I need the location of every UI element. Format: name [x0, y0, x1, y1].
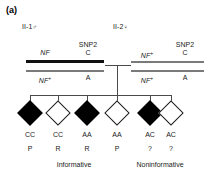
child-genotype-1: CC: [25, 131, 35, 139]
right-parent-hap1-locus: NF+: [141, 49, 153, 60]
child-genotype-2: CC: [53, 131, 63, 139]
left-parent-hap1-locus: NF: [40, 49, 49, 57]
child-phase-3: R: [84, 145, 89, 153]
parent-id-ii-1: II-1♂: [22, 23, 37, 31]
child-genotype-4: AA: [112, 131, 121, 139]
right-parent-hap2-locus: NF+: [141, 74, 153, 85]
child-symbol-4: [104, 100, 129, 125]
left-parent-haplotype-bar-2: [26, 70, 104, 72]
child-symbol-3: [74, 100, 99, 125]
child-symbol-6: [158, 100, 183, 125]
child-symbol-1: [17, 100, 42, 125]
child-phase-1: P: [28, 145, 33, 153]
descent-line: [117, 65, 118, 95]
child-genotype-3: AA: [82, 131, 91, 139]
mating-line: [105, 65, 131, 66]
female-symbol-icon: ♀: [124, 24, 129, 30]
right-parent-hap1-allele: C: [182, 49, 187, 57]
child-genotype-6: AC: [166, 131, 176, 139]
right-parent-haplotype-bar-2: [131, 70, 204, 72]
right-parent-snp-name: SNP2: [176, 41, 194, 49]
right-parent-haplotype-bar-1: [131, 61, 204, 63]
child-symbol-2: [45, 100, 70, 125]
group-label-informative: Informative: [57, 161, 92, 169]
right-parent-hap2-allele: A: [183, 74, 188, 82]
male-symbol-icon: ♂: [33, 24, 38, 30]
left-parent-haplotype-bar-1: [26, 60, 104, 63]
child-phase-2: R: [55, 145, 60, 153]
left-parent-hap1-allele: C: [85, 49, 90, 57]
parent-id-ii-2: II-2♀: [113, 23, 128, 31]
child-phase-4: P: [115, 145, 120, 153]
left-parent-hap2-locus: NF+: [39, 74, 51, 85]
child-phase-5: ?: [148, 145, 152, 153]
left-parent-snp-name: SNP2: [79, 41, 97, 49]
pedigree-figure: (a) II-1♂ NF SNP2 C NF+ A II-2♀ NF+ SNP2…: [0, 0, 210, 178]
panel-letter: (a): [6, 5, 17, 15]
group-label-noninformative: Noninformative: [136, 161, 183, 169]
child-phase-6: ?: [169, 145, 173, 153]
left-parent-hap2-allele: A: [86, 74, 91, 82]
child-genotype-5: AC: [145, 131, 155, 139]
